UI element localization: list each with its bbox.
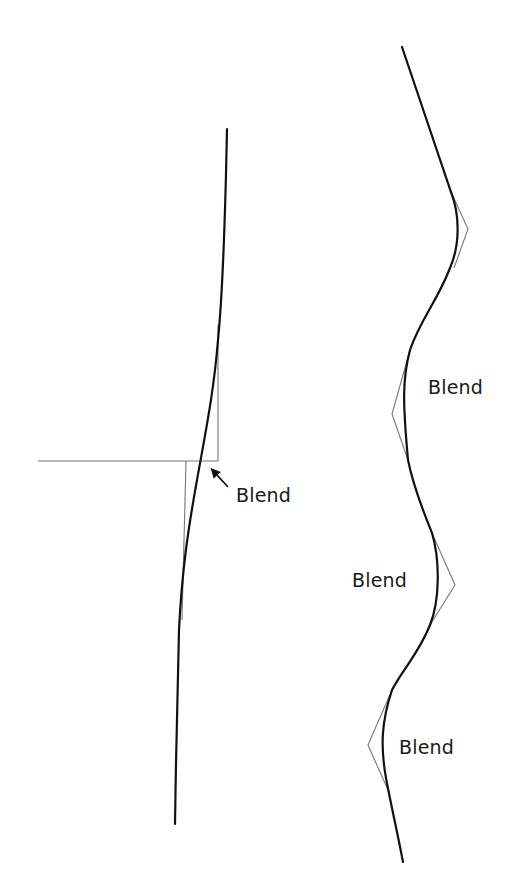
left-blend-label: Blend	[236, 486, 291, 505]
right-blend-label-1: Blend	[428, 378, 483, 397]
left-diagram	[38, 129, 228, 824]
construction-line	[182, 461, 186, 620]
arrow-icon	[216, 474, 228, 487]
right-control-polygons	[368, 192, 468, 790]
right-blend-label-3: Blend	[399, 738, 454, 757]
right-blend-label-2: Blend	[352, 571, 407, 590]
left-construction-lines	[38, 325, 218, 620]
